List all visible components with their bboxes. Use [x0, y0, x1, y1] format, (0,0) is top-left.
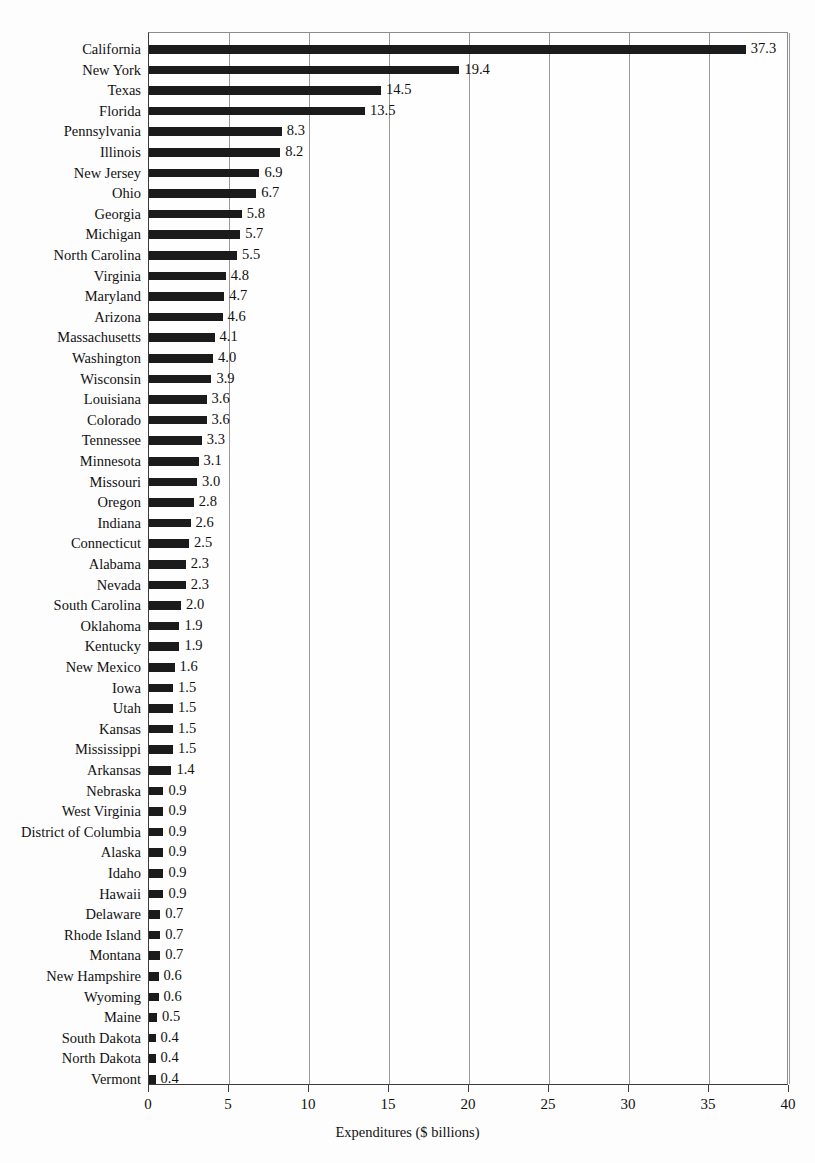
bar: [149, 869, 163, 878]
bar-row: Florida13.5: [149, 101, 787, 122]
bar-value-label: 0.7: [165, 944, 183, 965]
bar-row: Pennsylvania8.3: [149, 121, 787, 142]
bar-value-label: 0.9: [168, 862, 186, 883]
bar: [149, 972, 159, 981]
bar-row: Maine0.5: [149, 1007, 787, 1028]
bar: [149, 745, 173, 754]
bar-row: South Carolina2.0: [149, 595, 787, 616]
bar: [149, 354, 213, 363]
bar: [149, 210, 242, 219]
x-tick-mark: [708, 1085, 709, 1092]
bar-value-label: 0.6: [164, 965, 182, 986]
bar-row: Delaware0.7: [149, 904, 787, 925]
category-label: Washington: [0, 348, 141, 369]
bar: [149, 107, 365, 116]
bar-value-label: 3.3: [207, 429, 225, 450]
x-tick-mark: [148, 1085, 149, 1092]
category-label: West Virginia: [0, 801, 141, 822]
bar-value-label: 0.4: [161, 1027, 179, 1048]
bar-row: Wisconsin3.9: [149, 369, 787, 390]
bar: [149, 189, 256, 198]
category-label: New York: [0, 60, 141, 81]
bar: [149, 910, 160, 919]
bar-row: Montana0.7: [149, 945, 787, 966]
bar-row: Mississippi1.5: [149, 739, 787, 760]
bar-row: Nevada2.3: [149, 575, 787, 596]
bar-value-label: 1.6: [180, 656, 198, 677]
bar: [149, 333, 215, 342]
category-label: District of Columbia: [0, 822, 141, 843]
category-label: Georgia: [0, 204, 141, 225]
bar-value-label: 1.9: [184, 615, 202, 636]
x-tick-label: 30: [608, 1096, 648, 1113]
category-label: Illinois: [0, 142, 141, 163]
bar-row: Oklahoma1.9: [149, 616, 787, 637]
category-label: Nebraska: [0, 781, 141, 802]
bar: [149, 66, 459, 75]
bar: [149, 478, 197, 487]
bar-value-label: 37.3: [751, 38, 776, 59]
bar: [149, 931, 160, 940]
bar: [149, 951, 160, 960]
category-label: Montana: [0, 945, 141, 966]
bar-value-label: 1.5: [178, 738, 196, 759]
bar: [149, 560, 186, 569]
bar: [149, 127, 282, 136]
category-label: South Carolina: [0, 595, 141, 616]
bar: [149, 828, 163, 837]
x-tick-mark: [308, 1085, 309, 1092]
category-label: Alabama: [0, 554, 141, 575]
plot-area: California37.3New York19.4Texas14.5Flori…: [148, 32, 788, 1085]
bar-value-label: 13.5: [370, 100, 395, 121]
bar-value-label: 4.8: [231, 265, 249, 286]
bar-value-label: 5.7: [245, 223, 263, 244]
bar: [149, 581, 186, 590]
bar-value-label: 19.4: [464, 59, 489, 80]
category-label: Massachusetts: [0, 327, 141, 348]
bar: [149, 86, 381, 95]
bar-row: West Virginia0.9: [149, 801, 787, 822]
bar-value-label: 1.5: [178, 697, 196, 718]
bar-value-label: 8.2: [285, 141, 303, 162]
category-label: Connecticut: [0, 533, 141, 554]
bar-value-label: 2.6: [196, 512, 214, 533]
bar-row: Alabama2.3: [149, 554, 787, 575]
bar-row: Connecticut2.5: [149, 533, 787, 554]
category-label: Texas: [0, 80, 141, 101]
bar-value-label: 3.6: [212, 409, 230, 430]
bar-value-label: 4.7: [229, 285, 247, 306]
bar-row: Illinois8.2: [149, 142, 787, 163]
bar-value-label: 0.9: [168, 780, 186, 801]
category-label: New Hampshire: [0, 966, 141, 987]
category-label: Oklahoma: [0, 616, 141, 637]
bar-value-label: 0.7: [165, 924, 183, 945]
category-label: South Dakota: [0, 1028, 141, 1049]
x-tick-mark: [628, 1085, 629, 1092]
bar-value-label: 4.1: [220, 326, 238, 347]
bar-row: California37.3: [149, 39, 787, 60]
bar: [149, 766, 171, 775]
bar-value-label: 2.8: [199, 491, 217, 512]
category-label: Maine: [0, 1007, 141, 1028]
category-label: Wyoming: [0, 987, 141, 1008]
bar-value-label: 4.6: [228, 306, 246, 327]
bar: [149, 1013, 157, 1022]
bar-value-label: 0.7: [165, 903, 183, 924]
bar-row: Virginia4.8: [149, 266, 787, 287]
bar: [149, 642, 179, 651]
bar: [149, 890, 163, 899]
category-label: Hawaii: [0, 884, 141, 905]
category-label: Rhode Island: [0, 925, 141, 946]
bar: [149, 375, 211, 384]
bar: [149, 272, 226, 281]
bar-row: New York19.4: [149, 60, 787, 81]
x-tick-mark: [228, 1085, 229, 1092]
category-label: Louisiana: [0, 389, 141, 410]
category-label: Utah: [0, 698, 141, 719]
bar: [149, 663, 175, 672]
bar: [149, 395, 207, 404]
category-label: Arkansas: [0, 760, 141, 781]
bar: [149, 436, 202, 445]
bar-row: Wyoming0.6: [149, 987, 787, 1008]
category-label: Idaho: [0, 863, 141, 884]
